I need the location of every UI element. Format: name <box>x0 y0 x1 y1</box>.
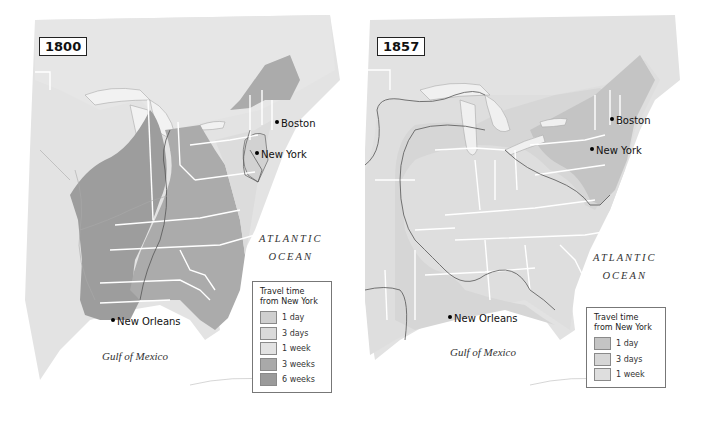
legend-item: 3 days <box>594 352 659 368</box>
ocean-label-line-1: ATLANTIC <box>259 233 322 244</box>
gulf-label: Gulf of Mexico <box>450 346 516 358</box>
gulf-label: Gulf of Mexico <box>102 350 168 362</box>
year-label: 1800 <box>39 37 87 56</box>
city-new-orleans: New Orleans <box>111 316 181 327</box>
legend-item: 1 day <box>594 336 659 352</box>
map-1857: 1857 Boston New York New Orleans ATLANTI… <box>355 0 710 422</box>
legend-title: Travel time from New York <box>594 313 659 333</box>
legend-item: 1 week <box>260 341 325 357</box>
city-label: Boston <box>281 118 316 129</box>
city-boston: Boston <box>610 115 651 126</box>
city-new-york: New York <box>590 145 642 156</box>
legend-item: 3 days <box>260 326 325 342</box>
city-label: New Orleans <box>117 316 181 327</box>
city-dot-icon <box>255 151 259 155</box>
city-dot-icon <box>590 147 594 151</box>
legend: Travel time from New York 1 day 3 days 1… <box>586 307 666 388</box>
legend-label: 1 day <box>616 339 638 348</box>
legend-item: 6 weeks <box>260 372 325 388</box>
legend-label: 6 weeks <box>282 375 315 384</box>
city-label: Boston <box>616 115 651 126</box>
legend-item: 3 weeks <box>260 357 325 373</box>
legend-swatch <box>594 337 611 350</box>
legend-label: 3 days <box>282 329 309 338</box>
city-new-orleans: New Orleans <box>448 313 518 324</box>
legend-item: 1 day <box>260 310 325 326</box>
city-boston: Boston <box>275 118 316 129</box>
city-dot-icon <box>275 120 279 124</box>
legend-swatch <box>260 373 277 386</box>
city-dot-icon <box>111 318 115 322</box>
legend-swatch <box>260 342 277 355</box>
legend-swatch <box>260 311 277 324</box>
ocean-label-line-2: OCEAN <box>259 251 322 262</box>
legend-label: 3 weeks <box>282 360 315 369</box>
legend-label: 3 days <box>616 355 643 364</box>
legend-swatch <box>260 327 277 340</box>
ocean-label: ATLANTIC OCEAN <box>259 233 322 262</box>
legend-swatch <box>260 358 277 371</box>
ocean-label-line-2: OCEAN <box>593 270 656 281</box>
legend-item: 1 week <box>594 367 659 383</box>
legend-label: 1 week <box>282 344 311 353</box>
city-new-york: New York <box>255 149 307 160</box>
city-label: New York <box>596 145 642 156</box>
legend-title: Travel time from New York <box>260 287 325 307</box>
city-dot-icon <box>610 117 614 121</box>
city-dot-icon <box>448 315 452 319</box>
ocean-label: ATLANTIC OCEAN <box>593 252 656 281</box>
legend-label: 1 day <box>282 313 304 322</box>
legend-label: 1 week <box>616 370 645 379</box>
ocean-label-line-1: ATLANTIC <box>593 252 656 263</box>
year-label: 1857 <box>377 37 425 56</box>
map-1800: 1800 Boston New York New Orleans ATLANTI… <box>0 0 355 422</box>
city-label: New Orleans <box>454 313 518 324</box>
legend: Travel time from New York 1 day 3 days 1… <box>252 281 332 393</box>
legend-swatch <box>594 353 611 366</box>
city-label: New York <box>261 149 307 160</box>
legend-swatch <box>594 368 611 381</box>
